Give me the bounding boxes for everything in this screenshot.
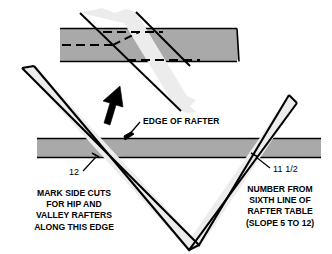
- note-left-line-4: ALONG THIS EDGE: [4, 222, 144, 233]
- note-right-line-4: (SLOPE 5 TO 12): [228, 218, 332, 229]
- note-right-line-1: NUMBER FROM: [228, 184, 332, 195]
- dimension-label-11-half: 11 1/2: [273, 164, 298, 174]
- rafter-side-cut-diagram: EDGE OF RAFTER 12 11 1/2 MARK SIDE CUTS …: [0, 0, 332, 254]
- note-block-left: MARK SIDE CUTS FOR HIP AND VALLEY RAFTER…: [4, 188, 144, 233]
- edge-of-rafter-label: EDGE OF RAFTER: [143, 116, 220, 126]
- note-block-right: NUMBER FROM SIXTH LINE OF RAFTER TABLE (…: [228, 184, 332, 229]
- note-left-line-1: MARK SIDE CUTS: [4, 188, 144, 199]
- leader-line-12: [83, 157, 96, 171]
- rafter-stock-edge-view: [37, 138, 321, 158]
- note-left-line-3: VALLEY RAFTERS: [4, 210, 144, 221]
- rotate-arrow: [103, 86, 123, 125]
- note-right-line-3: RAFTER TABLE: [228, 206, 332, 217]
- leader-line-11-half: [256, 157, 270, 168]
- note-right-line-2: SIXTH LINE OF: [228, 195, 332, 206]
- dimension-label-12: 12: [69, 167, 79, 177]
- note-left-line-2: FOR HIP AND: [4, 199, 144, 210]
